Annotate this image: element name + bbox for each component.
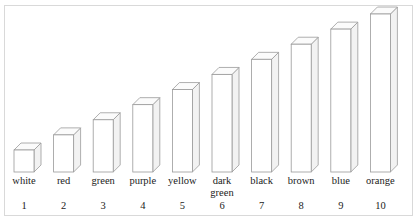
tick-label-10: 10 xyxy=(350,200,410,212)
category-label-line1-6: dark xyxy=(213,175,232,186)
category-label-line1-2: red xyxy=(57,175,70,186)
labels-layer: whiteredgreenpurpleyellowdarkgreenblackb… xyxy=(0,0,418,221)
category-label-line1-10: orange xyxy=(366,175,395,186)
category-label-line1-1: white xyxy=(12,175,35,186)
category-label-line1-3: green xyxy=(92,175,115,186)
category-label-line1-9: blue xyxy=(332,175,350,186)
category-label-10: orange xyxy=(350,175,410,187)
bar-chart-figure: whiteredgreenpurpleyellowdarkgreenblackb… xyxy=(0,0,418,221)
category-label-line2-6: green xyxy=(192,187,252,199)
category-label-line1-7: black xyxy=(250,175,273,186)
